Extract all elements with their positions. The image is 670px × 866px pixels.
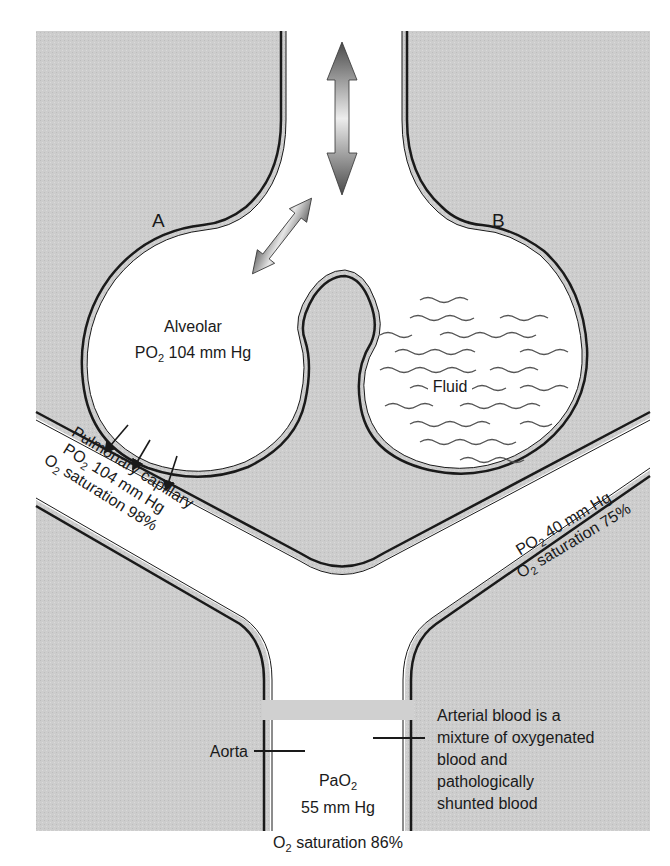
aorta-band xyxy=(262,700,414,720)
arterial-note-line: Arterial blood is a xyxy=(437,707,561,724)
arterial-note-line: mixture of oxygenated xyxy=(437,729,594,746)
alveolus-a-label: A xyxy=(152,210,165,231)
pao2-value: 55 mm Hg xyxy=(301,799,375,816)
alveolus-b-label: B xyxy=(492,210,505,231)
shunt-diagram: A B Alveolar PO2 104 mm Hg Fluid Pulmona… xyxy=(0,0,670,866)
arterial-note-line: blood and xyxy=(437,751,507,768)
aorta-label: Aorta xyxy=(210,743,248,760)
arterial-note-line: pathologically xyxy=(437,773,534,790)
fluid-label: Fluid xyxy=(433,378,468,395)
arterial-saturation: O2 saturation 86% xyxy=(273,834,403,854)
arterial-note-line: shunted blood xyxy=(437,795,538,812)
alveolar-label: Alveolar xyxy=(164,318,222,335)
